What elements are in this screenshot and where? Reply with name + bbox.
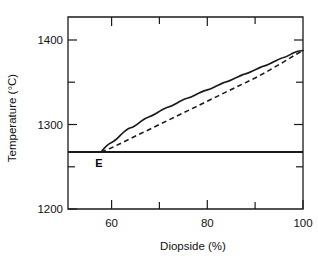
eutectic-point-label: E (95, 157, 102, 169)
y-axis-tick-labels: 1400 1300 1200 (37, 34, 63, 215)
right-spine-ticks (294, 40, 303, 167)
x-tick-label-60: 60 (105, 217, 118, 229)
y-tick-label-1400: 1400 (37, 34, 63, 46)
y-axis-title: Temperature (°C) (6, 74, 18, 162)
liquidus-solid-curve (101, 51, 303, 153)
x-axis-tick-labels: 60 80 100 (105, 217, 312, 229)
phase-diagram-figure: 1400 1300 1200 60 80 100 Diopside (%) Te… (0, 0, 318, 268)
x-tick-label-100: 100 (293, 217, 312, 229)
liquidus-dashed-curve (101, 51, 303, 153)
x-axis-title: Diopside (%) (160, 240, 226, 252)
x-tick-label-80: 80 (201, 217, 214, 229)
chart-canvas: 1400 1300 1200 60 80 100 Diopside (%) Te… (0, 0, 318, 268)
y-axis-major-ticks (68, 40, 77, 209)
y-tick-label-1300: 1300 (37, 119, 63, 131)
top-spine-ticks (112, 17, 256, 26)
y-tick-label-1200: 1200 (37, 203, 63, 215)
x-axis-major-ticks (112, 200, 303, 209)
plot-frame (68, 17, 303, 209)
